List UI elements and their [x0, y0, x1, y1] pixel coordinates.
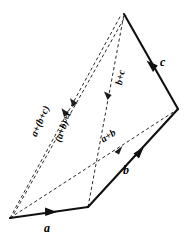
- arrowhead-a: [45, 208, 57, 217]
- arrowhead-b-plus-c: [104, 92, 112, 100]
- label-vector-b: b: [123, 164, 129, 176]
- label-vector-c: c: [160, 56, 165, 68]
- vector-c-line: [124, 14, 178, 109]
- label-vector-a: a: [44, 222, 50, 234]
- vector-b-line: [88, 109, 178, 207]
- vector-a-line: [10, 207, 88, 218]
- vector-diagram-figure: a b c a+b b+c a+(b+c) (a+b)+c: [0, 0, 194, 237]
- vector-diagram-canvas: [0, 0, 194, 237]
